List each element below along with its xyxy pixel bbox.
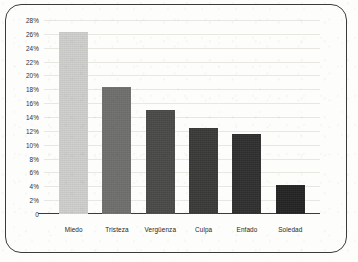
bar-slot (95, 20, 138, 214)
plot-area: 28%26%24%22%20%18%16%14%12%10%8%6%4%2%0 (44, 20, 320, 214)
y-axis-tick-label: 22% (26, 58, 39, 65)
x-label-slot: Enfado (225, 218, 268, 236)
scanned-page-background: 28%26%24%22%20%18%16%14%12%10%8%6%4%2%0 … (0, 0, 358, 262)
bar-slot (52, 20, 95, 214)
bar-culpa (189, 128, 218, 214)
y-axis-tick-label: 20% (26, 72, 39, 79)
y-axis-tick-label: 12% (26, 127, 39, 134)
y-axis-tick-label: 24% (26, 44, 39, 51)
y-axis-tick-label: 10% (26, 141, 39, 148)
x-axis-label-miedo: Miedo (65, 226, 83, 233)
y-axis-tick-label: 16% (26, 100, 39, 107)
y-axis-tick-label: 18% (26, 86, 39, 93)
bar-enfado (232, 134, 261, 214)
y-axis-tick-label: 26% (26, 30, 39, 37)
bar-slot (139, 20, 182, 214)
x-label-slot: Tristeza (95, 218, 138, 236)
y-axis-tick-label: 8% (30, 155, 39, 162)
bar-soledad (276, 185, 305, 214)
x-axis-label-culpa: Culpa (195, 226, 212, 233)
bar-miedo (59, 32, 88, 214)
x-axis-label-vergüenza: Vergüenza (145, 226, 176, 233)
x-axis-label-enfado: Enfado (237, 226, 258, 233)
y-axis-tick-label: 4% (30, 183, 39, 190)
bar-vergüenza (146, 110, 175, 214)
x-label-slot: Culpa (182, 218, 225, 236)
y-axis-tick-label: 6% (30, 169, 39, 176)
y-axis-tick-label: 0 (35, 211, 39, 218)
bar-tristeza (102, 87, 131, 214)
x-axis-label-soledad: Soledad (278, 226, 302, 233)
x-axis-label-tristeza: Tristeza (105, 226, 128, 233)
bar-slot (182, 20, 225, 214)
x-label-slot: Soledad (269, 218, 312, 236)
bar-slot (225, 20, 268, 214)
y-axis-tick-label: 14% (26, 114, 39, 121)
y-axis-tick-label: 28% (26, 17, 39, 24)
x-axis-category-labels: MiedoTristezaVergüenzaCulpaEnfadoSoledad (44, 218, 320, 236)
bars-group (44, 20, 320, 214)
y-axis-tick-label: 2% (30, 197, 39, 204)
x-label-slot: Miedo (52, 218, 95, 236)
x-label-slot: Vergüenza (139, 218, 182, 236)
bar-slot (269, 20, 312, 214)
